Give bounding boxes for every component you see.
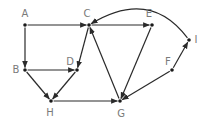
node-dot <box>187 38 191 42</box>
edge-c-to-d <box>78 28 89 68</box>
directed-graph: ACEIBDFHG <box>0 0 205 124</box>
node-label: H <box>46 107 54 118</box>
node-dot <box>75 68 79 72</box>
node-dot <box>23 68 27 72</box>
node-label: F <box>165 56 171 67</box>
node-dot <box>118 99 122 103</box>
node-label: C <box>84 8 91 19</box>
node-c: C <box>84 8 91 27</box>
edge-f-to-i <box>173 42 187 67</box>
node-g: G <box>117 99 125 119</box>
edge-b-to-h <box>27 72 50 99</box>
node-label: B <box>13 64 20 75</box>
edge-e-to-g <box>121 27 151 98</box>
node-dot <box>170 68 174 72</box>
node-label: A <box>22 8 29 19</box>
edge-f-to-g <box>122 71 170 99</box>
edges-layer <box>25 9 188 101</box>
node-dot <box>87 23 91 27</box>
node-dot <box>49 99 53 103</box>
node-i: I <box>187 34 197 45</box>
node-a: A <box>22 8 29 27</box>
edge-d-to-h <box>53 72 76 99</box>
edge-i-to-c <box>91 9 187 38</box>
node-h: H <box>46 99 54 118</box>
node-label: D <box>66 56 74 67</box>
node-dot <box>23 23 27 27</box>
node-label: E <box>146 8 152 19</box>
node-f: F <box>165 56 174 72</box>
node-dot <box>150 23 154 27</box>
node-label: G <box>117 108 125 119</box>
node-label: I <box>195 34 198 45</box>
edge-g-to-c <box>90 27 119 98</box>
